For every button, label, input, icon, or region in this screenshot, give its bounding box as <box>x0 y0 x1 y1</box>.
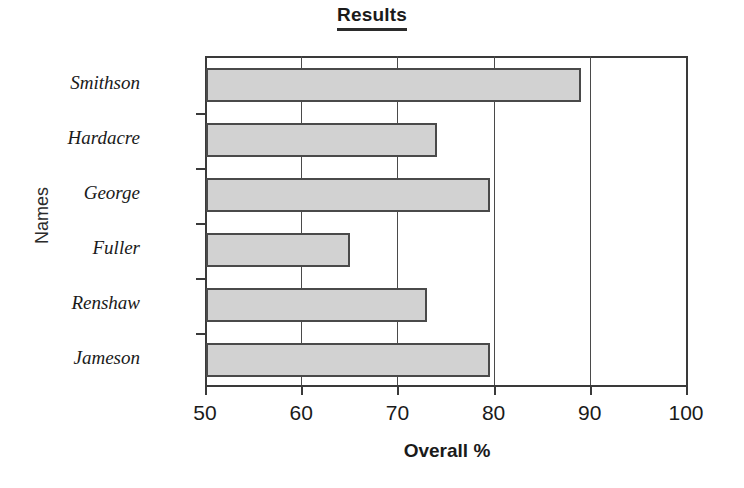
gridline-90 <box>590 56 591 387</box>
chart-title-text: Results <box>337 4 407 31</box>
x-label-50: 50 <box>170 401 240 425</box>
plot-frame-right <box>686 56 688 387</box>
y-tick-3 <box>196 278 205 280</box>
x-tick-90 <box>590 385 592 395</box>
x-tick-100 <box>686 385 688 395</box>
y-label-george: George <box>0 182 140 204</box>
x-tick-70 <box>397 385 399 395</box>
y-tick-4 <box>196 333 205 335</box>
bar-smithson <box>206 68 581 102</box>
y-label-renshaw: Renshaw <box>0 292 140 314</box>
bar-jameson <box>206 343 490 377</box>
plot-frame-left <box>205 56 207 387</box>
plot-frame-top <box>205 56 688 58</box>
chart-title: Results <box>0 4 744 31</box>
y-label-jameson: Jameson <box>0 347 140 369</box>
x-tick-60 <box>301 385 303 395</box>
x-label-90: 90 <box>555 401 625 425</box>
y-label-fuller: Fuller <box>0 237 140 259</box>
chart-page: Results Names Overall % SmithsonHardacre… <box>0 0 744 488</box>
x-label-70: 70 <box>362 401 432 425</box>
plot-area: SmithsonHardacreGeorgeFullerRenshawJames… <box>205 56 688 387</box>
x-tick-80 <box>494 385 496 395</box>
x-axis-title: Overall % <box>205 440 689 462</box>
gridline-80 <box>494 56 495 387</box>
x-tick-50 <box>205 385 207 395</box>
bar-george <box>206 178 490 212</box>
x-label-80: 80 <box>459 401 529 425</box>
y-label-smithson: Smithson <box>0 72 140 94</box>
x-label-100: 100 <box>651 401 721 425</box>
gridline-70 <box>397 56 398 387</box>
bar-hardacre <box>206 123 437 157</box>
bar-renshaw <box>206 288 427 322</box>
gridline-60 <box>301 56 302 387</box>
bar-fuller <box>206 233 350 267</box>
x-label-60: 60 <box>266 401 336 425</box>
plot-frame-bottom <box>205 385 688 387</box>
y-tick-1 <box>196 168 205 170</box>
y-label-hardacre: Hardacre <box>0 127 140 149</box>
y-tick-0 <box>196 113 205 115</box>
y-tick-2 <box>196 223 205 225</box>
